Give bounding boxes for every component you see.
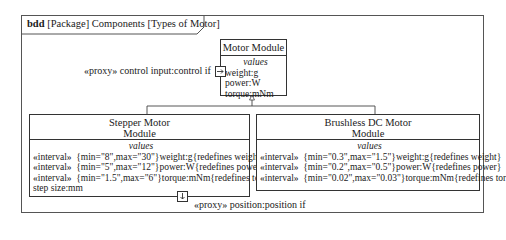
control-input-port-icon[interactable] bbox=[215, 66, 226, 77]
value-property: «interval» {min="0.3",max="1.5"}weight:g… bbox=[260, 152, 479, 163]
motor-module-name: Motor Module bbox=[221, 40, 286, 56]
brushless-dc-motor-module-block[interactable]: Brushless DC Motor Module values «interv… bbox=[256, 114, 480, 191]
brushless-module-name-line1: Brushless DC Motor bbox=[257, 117, 479, 128]
brushless-module-name: Brushless DC Motor Module bbox=[257, 115, 479, 140]
motor-module-values-compartment: values weight:g power:W torque:mNm bbox=[221, 56, 286, 99]
position-port-label: «proxy» position:position if bbox=[194, 199, 306, 210]
values-compartment-title: values bbox=[260, 141, 479, 152]
values-compartment-title: values bbox=[225, 57, 286, 68]
motor-module-block[interactable]: Motor Module values weight:g power:W tor… bbox=[220, 39, 287, 96]
stepper-module-name-line1: Stepper Motor bbox=[30, 117, 249, 128]
value-property: step size:mm bbox=[33, 183, 249, 194]
control-port-label: «proxy» control input:control if bbox=[84, 65, 211, 76]
value-property: «interval» {min="0.2",max="0.5"}power:W{… bbox=[260, 162, 479, 173]
values-compartment-title: values bbox=[33, 141, 249, 152]
value-property: power:W bbox=[225, 78, 286, 89]
brushless-values-compartment: values «interval» {min="0.3",max="1.5"}w… bbox=[257, 140, 479, 183]
stepper-module-name: Stepper Motor Module bbox=[30, 115, 249, 140]
position-port-icon[interactable] bbox=[177, 191, 188, 202]
value-property: weight:g bbox=[225, 68, 286, 79]
stepper-module-name-line2: Module bbox=[30, 128, 249, 139]
brushless-module-name-line2: Module bbox=[257, 128, 479, 139]
stepper-values-compartment: values «interval» {min="8",max="30"}weig… bbox=[30, 140, 249, 194]
value-property: «interval» {min="8",max="30"}weight:g{re… bbox=[33, 152, 249, 163]
value-property: torque:mNm bbox=[225, 89, 286, 100]
stepper-motor-module-block[interactable]: Stepper Motor Module values «interval» {… bbox=[29, 114, 250, 197]
value-property: «interval» {min="1.5",max="6"}torque:mNm… bbox=[33, 173, 249, 184]
value-property: «interval» {min="0.02",max="0.03"}torque… bbox=[260, 173, 479, 184]
value-property: «interval» {min="5",max="12"}power:W{red… bbox=[33, 162, 249, 173]
